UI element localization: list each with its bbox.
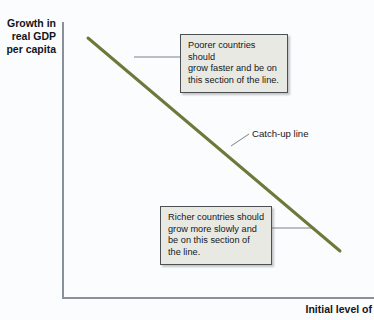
- callout-richer-line-4: the line.: [168, 247, 264, 259]
- leader-line-catchup: [231, 134, 249, 146]
- callout-richer-line-2: grow more slowly and: [168, 224, 264, 236]
- callout-poorer-line-3: this section of the line.: [188, 75, 280, 87]
- callout-poorer-line-2: grow faster and be on: [188, 63, 280, 75]
- catch-up-line-figure: Growth in real GDP per capita Initial le…: [0, 0, 374, 320]
- callout-richer-countries: Richer countries should grow more slowly…: [160, 206, 272, 265]
- catch-up-line-label: Catch-up line: [252, 128, 309, 139]
- callout-poorer-line-1: Poorer countries should: [188, 40, 280, 63]
- callout-richer-line-1: Richer countries should: [168, 212, 264, 224]
- callout-richer-line-3: be on this section of: [168, 235, 264, 247]
- callout-poorer-countries: Poorer countries should grow faster and …: [180, 34, 288, 93]
